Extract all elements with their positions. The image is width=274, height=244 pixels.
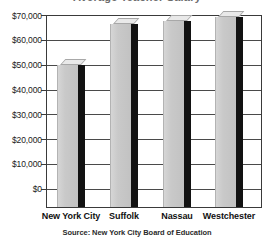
bar-face <box>215 17 236 207</box>
y-axis-label-30000: $30,000 <box>12 110 42 120</box>
bar-face <box>110 24 131 207</box>
bar-shadow <box>131 24 138 207</box>
x-axis-label-new-york-city: New York City <box>42 211 100 221</box>
bar-chart: Average Teacher Salary $70,000 $60,000 $… <box>0 0 274 244</box>
y-axis-label-70000: $70,000 <box>12 11 42 21</box>
bar-new-york-city <box>57 60 78 207</box>
bar-shadow <box>78 65 85 207</box>
y-axis-label-40000: $40,000 <box>12 85 42 95</box>
y-axis-label-20000: $20,000 <box>12 135 42 145</box>
bar-westchester <box>215 12 236 207</box>
bar-nassau <box>163 16 184 207</box>
y-axis-label-50000: $50,000 <box>12 60 42 70</box>
bar-shadow <box>184 21 191 207</box>
chart-title-text: Average Teacher Salary <box>73 0 201 3</box>
x-axis-label-suffolk: Suffolk <box>109 211 139 221</box>
chart-title-cropped: Average Teacher Salary <box>0 0 274 7</box>
y-axis-label-60000: $60,000 <box>12 35 42 45</box>
bar-suffolk <box>110 19 131 207</box>
plot-area <box>46 15 262 208</box>
bar-shadow <box>236 17 243 207</box>
y-axis-label-10000: $10,000 <box>12 159 42 169</box>
bar-face <box>57 65 78 207</box>
x-axis-label-westchester: Westchester <box>203 211 255 221</box>
bar-face <box>163 21 184 207</box>
source-note: Source: New York City Board of Education <box>0 228 274 237</box>
x-axis-label-nassau: Nassau <box>161 211 192 221</box>
